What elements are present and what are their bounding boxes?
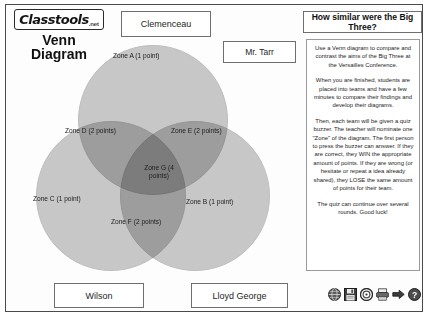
venn-circle-lloyd-george[interactable]: [120, 121, 270, 271]
circle-label-wilson[interactable]: Wilson: [54, 283, 144, 308]
zone-label-g[interactable]: Zone G (4 points): [134, 164, 184, 180]
circle-label-lloyd-george[interactable]: Lloyd George: [191, 283, 288, 308]
zone-label-c[interactable]: Zone C (1 point): [33, 195, 81, 203]
question-banner[interactable]: How similar were the Big Three?: [303, 11, 422, 33]
teacher-name-box[interactable]: Mr. Tarr: [223, 41, 296, 63]
venn-diagram[interactable]: Zone A (1 point) Zone D (2 points) Zone …: [24, 43, 294, 283]
circle-label-clemenceau[interactable]: Clemenceau: [121, 11, 211, 37]
classtools-logo[interactable]: Classtools.net: [14, 9, 103, 30]
help-icon[interactable]: ?: [408, 288, 421, 301]
instructions-paragraph-2: When you are finished, students are plac…: [312, 76, 414, 110]
print-icon[interactable]: [376, 288, 389, 301]
zone-label-f[interactable]: Zone F (2 points): [111, 218, 161, 226]
save-icon[interactable]: [344, 288, 357, 301]
application-frame: Classtools.net Venn Diagram Zone A (1 po…: [5, 4, 423, 312]
instructions-paragraph-4: The quiz can continue over several round…: [312, 200, 414, 217]
toolbar: ?: [328, 288, 421, 301]
logo-wordmark: Classtools: [19, 12, 89, 27]
logo-tld: .net: [89, 21, 99, 27]
zone-label-e[interactable]: Zone E (2 points): [171, 127, 222, 135]
export-icon[interactable]: [392, 288, 405, 301]
zone-label-b[interactable]: Zone B (1 point): [186, 198, 233, 206]
zone-label-d[interactable]: Zone D (2 points): [65, 127, 116, 135]
zone-label-a[interactable]: Zone A (1 point): [113, 52, 160, 60]
target-icon[interactable]: [360, 288, 373, 301]
svg-text:?: ?: [412, 290, 417, 300]
instructions-paragraph-3: Then, each team will be given a quiz buz…: [312, 117, 414, 193]
instructions-panel[interactable]: Use a Venn diagram to compare and contra…: [306, 39, 420, 271]
page-caption: [0, 314, 431, 326]
globe-icon[interactable]: [328, 288, 341, 301]
instructions-paragraph-1: Use a Venn diagram to compare and contra…: [312, 44, 414, 69]
